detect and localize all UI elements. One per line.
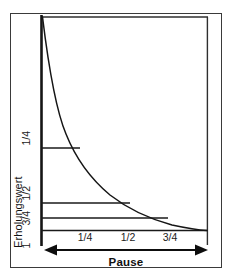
chart-plot-area bbox=[0, 0, 233, 274]
x-tick-label-quarter: 1/4 bbox=[78, 232, 93, 243]
arrow-left-icon bbox=[44, 245, 57, 256]
x-tick-label-half: 1/2 bbox=[121, 232, 136, 243]
arrow-right-icon bbox=[195, 245, 208, 256]
chart-figure: 1/4 1/2 3/4 1/4 1/2 3/4 1 Erholungswert … bbox=[0, 0, 233, 274]
y-tick-label-quarter: 1/4 bbox=[21, 131, 32, 146]
x-tick-label-three-quarter: 3/4 bbox=[163, 232, 178, 243]
x-axis-title: Pause bbox=[109, 256, 144, 268]
y-axis-title: Erholungswert bbox=[12, 176, 24, 248]
recovery-curve bbox=[43, 17, 208, 231]
